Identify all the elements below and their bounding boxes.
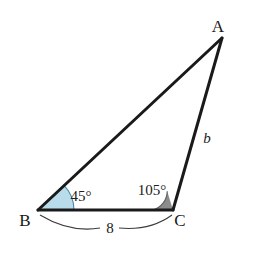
angle-label-c: 105° — [138, 182, 167, 198]
vertex-label-a: A — [212, 17, 225, 36]
diagram-background — [0, 0, 256, 262]
angle-label-b: 45° — [71, 188, 92, 204]
side-label-ca: b — [203, 130, 211, 146]
vertex-label-c: C — [174, 211, 185, 230]
triangle-figure: A B C 45° 105° 8 b — [0, 0, 256, 262]
vertex-label-b: B — [19, 211, 30, 230]
side-label-bc: 8 — [106, 220, 114, 236]
triangle-diagram-canvas: A B C 45° 105° 8 b — [0, 0, 256, 262]
